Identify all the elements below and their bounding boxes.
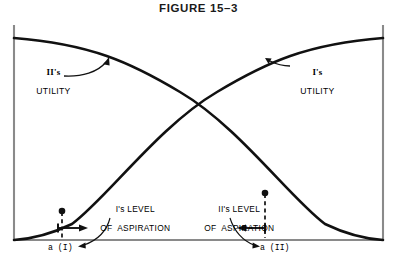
label-aspiration-one-line2: OF ASPIRATION: [100, 223, 170, 233]
label-utility-one-player: I's: [312, 67, 322, 77]
label-aspiration-two: II's LEVEL OF ASPIRATION: [186, 196, 282, 243]
label-aspiration-one: I's LEVEL OF ASPIRATION: [84, 196, 176, 243]
label-point-a-one: a (I): [48, 243, 73, 252]
label-aspiration-two-line1: II's LEVEL: [218, 204, 260, 214]
figure-container: FIGURE 15–3: [0, 0, 397, 264]
label-aspiration-one-line1: I's LEVEL: [116, 204, 155, 214]
label-utility-two-text: UTILITY: [36, 86, 70, 96]
label-utility-one: I's UTILITY: [286, 57, 338, 106]
label-utility-two-player: II's: [47, 67, 61, 77]
label-aspiration-two-line2: OF ASPIRATION: [204, 223, 274, 233]
label-utility-one-text: UTILITY: [300, 86, 334, 96]
label-point-a-two: a (II): [260, 243, 289, 252]
label-utility-two: II's UTILITY: [18, 57, 78, 106]
